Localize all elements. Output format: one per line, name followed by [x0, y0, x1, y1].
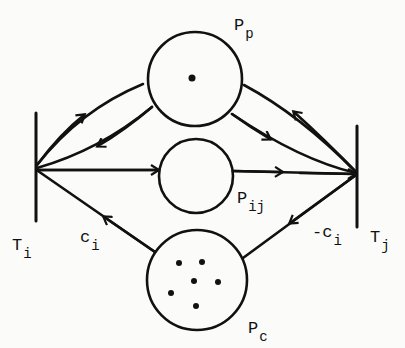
label-subscript: j — [381, 238, 389, 254]
label-t-i: Ti — [12, 237, 32, 254]
label-p-ij: Pij — [237, 190, 265, 207]
token-dot — [189, 75, 196, 82]
token-dot — [168, 290, 174, 296]
arc-pp-to-tj — [232, 114, 356, 173]
label-text: T — [12, 236, 22, 255]
label-subscript: p — [245, 26, 253, 42]
place-p-c — [147, 230, 247, 330]
label-arc-c-i: ci — [80, 229, 100, 246]
arc-pp-to-tj-arrow — [232, 114, 270, 139]
label-arc-neg-c-i: -ci — [312, 224, 342, 241]
arc-pp-to-ti — [37, 107, 152, 168]
label-p-p: Pp — [234, 17, 254, 34]
tokens — [168, 75, 221, 310]
label-text: P — [237, 189, 247, 208]
label-text: T — [370, 228, 380, 247]
label-subscript: ij — [248, 199, 265, 215]
place-p-ij — [159, 139, 233, 213]
label-text: P — [234, 16, 244, 35]
diagram-graphics — [0, 0, 405, 348]
token-dot — [199, 259, 205, 265]
token-dot — [193, 303, 199, 309]
token-dot — [176, 260, 182, 266]
token-dot — [215, 279, 221, 285]
label-p-c: Pc — [248, 320, 268, 337]
label-text: P — [248, 319, 258, 338]
label-text: c — [80, 228, 90, 247]
arc-pij-to-tj-arrow — [233, 171, 282, 172]
arc-pij-to-tj-arrow2 — [300, 173, 355, 174]
label-subscript: i — [91, 238, 99, 254]
token-dot — [191, 278, 197, 284]
arc-tj-to-pp — [244, 85, 356, 172]
label-text: -c — [312, 223, 332, 242]
label-t-j: Tj — [370, 229, 390, 246]
arc-tj-to-pc-arrow — [290, 175, 356, 223]
label-subscript: c — [259, 329, 267, 345]
label-subscript: i — [333, 233, 341, 249]
arc-pc-to-ti-arrow — [104, 217, 155, 252]
label-subscript: i — [23, 246, 31, 262]
petri-net-diagram: Pp Pij Pc Ti Tj ci -ci — [0, 0, 405, 348]
